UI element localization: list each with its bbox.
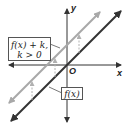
translated-function-label: f(x) + k, k > 0 bbox=[8, 37, 51, 61]
translated-label-leader bbox=[50, 44, 60, 48]
translated-function-label-line1: f(x) + k, bbox=[9, 40, 50, 50]
translated-line-lower bbox=[9, 65, 47, 103]
origin-label: O bbox=[69, 66, 76, 76]
original-function-label: f(x) bbox=[61, 87, 83, 100]
translated-function-label-line2: k > 0 bbox=[9, 50, 50, 60]
y-axis-label: y bbox=[71, 3, 76, 13]
translation-diagram: y x O f(x) + k, k > 0 f(x) bbox=[0, 0, 130, 131]
original-function-label-text: f(x) bbox=[64, 89, 79, 99]
x-axis-label: x bbox=[117, 68, 122, 78]
translated-line bbox=[47, 12, 100, 65]
coordinate-plane bbox=[0, 0, 130, 131]
